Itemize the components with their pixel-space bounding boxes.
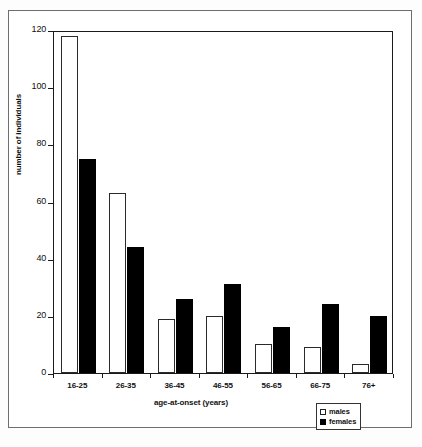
x-tick-label-16-25: 16-25 — [53, 381, 102, 390]
x-tick-label-56-65: 56-65 — [247, 381, 296, 390]
bar-group — [200, 32, 249, 373]
bar-group — [248, 32, 297, 373]
bar-females-16-25 — [79, 159, 96, 373]
bar-group — [54, 32, 103, 373]
y-tick-label: 0 — [41, 367, 46, 377]
bar-females-26-35 — [127, 247, 144, 373]
x-tick-mark — [53, 374, 54, 378]
legend-label-females: females — [329, 417, 356, 426]
x-tick-mark — [199, 374, 200, 378]
x-tick-mark — [247, 374, 248, 378]
y-tick-label: 20 — [36, 310, 46, 320]
bar-males-36-45 — [158, 319, 175, 373]
y-tick-label: 100 — [32, 81, 46, 91]
legend-swatch-males-icon — [320, 409, 326, 415]
bar-group — [297, 32, 346, 373]
bar-groups — [54, 32, 392, 373]
y-tick-label: 80 — [36, 138, 46, 148]
bar-males-46-55 — [206, 316, 223, 373]
y-tick-label: 60 — [36, 196, 46, 206]
y-tick-label: 40 — [36, 253, 46, 263]
x-axis-title-text: age-at-onset (years) — [154, 398, 228, 407]
x-tick-label-66-75: 66-75 — [296, 381, 345, 390]
x-tick-mark — [296, 374, 297, 378]
bar-males-76+ — [352, 364, 369, 373]
legend-label-males: males — [329, 407, 350, 416]
x-tick-mark — [102, 374, 103, 378]
plot-area — [53, 31, 393, 374]
x-tick-label-76+: 76+ — [344, 381, 393, 390]
bar-males-26-35 — [109, 193, 126, 373]
bar-females-56-65 — [273, 327, 290, 373]
y-axis: 020406080100120 — [0, 0, 53, 447]
bar-group — [151, 32, 200, 373]
bar-females-76+ — [370, 316, 387, 373]
figure-container: number of individuals 020406080100120 16… — [0, 0, 422, 447]
legend-swatch-females-icon — [320, 419, 326, 425]
x-tick-label-26-35: 26-35 — [102, 381, 151, 390]
legend-entry-females: females — [320, 417, 356, 426]
legend: males females — [316, 403, 361, 430]
x-tick-mark — [393, 374, 394, 378]
x-tick-mark — [150, 374, 151, 378]
x-tick-mark — [344, 374, 345, 378]
legend-entry-males: males — [320, 407, 356, 416]
y-tick-label: 120 — [32, 24, 46, 34]
bar-females-36-45 — [176, 299, 193, 373]
bar-males-66-75 — [304, 347, 321, 373]
bar-group — [345, 32, 394, 373]
x-tick-label-46-55: 46-55 — [199, 381, 248, 390]
bar-males-16-25 — [61, 36, 78, 373]
bar-females-66-75 — [322, 304, 339, 373]
x-tick-label-36-45: 36-45 — [150, 381, 199, 390]
bar-females-46-55 — [224, 284, 241, 373]
bar-males-56-65 — [255, 344, 272, 373]
bar-group — [103, 32, 152, 373]
